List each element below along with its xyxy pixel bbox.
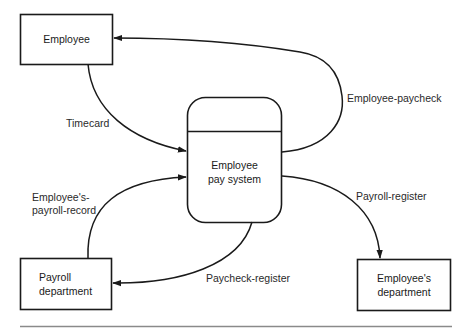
flow-payroll-record-line1: Employee's-: [32, 191, 96, 204]
employees-department-line2: department: [357, 285, 451, 299]
flow-paycheck-register-label: Paycheck-register: [206, 272, 290, 285]
flow-payroll-register-label: Payroll-register: [356, 190, 427, 203]
payroll-department-line1: Payroll: [39, 270, 92, 284]
flow-timecard-arrow: [88, 64, 186, 151]
process-label: Employee pay system: [187, 158, 282, 186]
employee-entity-label: Employee: [20, 32, 113, 46]
payroll-department-line2: department: [39, 284, 92, 298]
flow-payroll-register-arrow: [282, 176, 380, 258]
payroll-department-entity-label: Payroll department: [39, 270, 92, 298]
flow-timecard-label: Timecard: [66, 117, 109, 130]
employees-department-line1: Employee's: [357, 271, 451, 285]
employees-department-entity-label: Employee's department: [357, 271, 451, 299]
process-label-line2: pay system: [187, 172, 282, 186]
process-label-line1: Employee: [187, 158, 282, 172]
flow-payroll-record-line2: payroll-record: [32, 204, 96, 217]
flow-employee-paycheck-label: Employee-paycheck: [347, 92, 442, 105]
flow-payroll-record-arrow: [88, 177, 186, 258]
flow-payroll-record-label: Employee's- payroll-record: [32, 191, 96, 217]
